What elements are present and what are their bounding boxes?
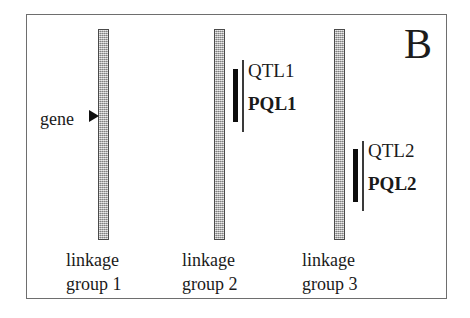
pql2-label: PQL2 — [368, 174, 417, 193]
linkage-group-3-caption: linkage group 3 — [302, 249, 358, 297]
right-triangle-arrow-icon — [89, 110, 99, 122]
linkage-group-2-caption-line1: linkage — [182, 249, 238, 273]
linkage-group-2-caption-line2: group 2 — [182, 273, 238, 297]
pql1-marker-bar — [233, 69, 238, 122]
linkage-group-1-caption-line2: group 1 — [66, 273, 122, 297]
linkage-group-1-caption: linkage group 1 — [66, 249, 122, 297]
linkage-group-1-chromosome-bar — [98, 29, 109, 240]
pql2-marker-bar — [353, 149, 358, 202]
linkage-group-1-caption-line1: linkage — [66, 249, 122, 273]
qtl1-label: QTL1 — [248, 61, 294, 80]
linkage-group-3-caption-line1: linkage — [302, 249, 358, 273]
linkage-group-2-chromosome-bar — [214, 29, 225, 240]
qtl2-marker-line — [362, 141, 364, 211]
linkage-group-2-caption: linkage group 2 — [182, 249, 238, 297]
gene-label: gene — [40, 110, 74, 128]
figure-panel-b: B gene linkage group 1 QTL1 PQL1 linkage… — [0, 0, 470, 318]
qtl1-marker-line — [242, 60, 244, 132]
qtl2-label: QTL2 — [368, 141, 414, 160]
linkage-group-3-caption-line2: group 3 — [302, 273, 358, 297]
pql1-label: PQL1 — [248, 94, 297, 113]
figure-border-frame: B gene linkage group 1 QTL1 PQL1 linkage… — [26, 14, 447, 299]
linkage-group-3-chromosome-bar — [334, 29, 345, 240]
panel-letter: B — [404, 23, 432, 65]
